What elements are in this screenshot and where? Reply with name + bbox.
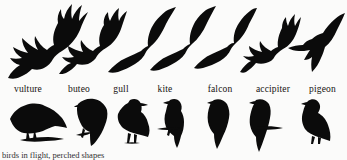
label-kite: kite <box>148 83 182 96</box>
bird-silhouette-figure: vulture buteo gull kite falcon accipiter… <box>0 0 347 160</box>
flight-silhouette-pigeon <box>288 0 346 84</box>
label-pigeon: pigeon <box>301 83 344 96</box>
label-accipiter: accipiter <box>246 83 300 96</box>
perched-silhouette-buteo <box>74 97 110 152</box>
birds-in-flight-row <box>0 0 347 84</box>
perched-birds-row <box>0 97 347 152</box>
label-falcon: falcon <box>198 83 242 96</box>
caption-text: birds in flight, perched shapes <box>2 151 104 160</box>
label-buteo: buteo <box>56 83 102 96</box>
clipped-caption-row: birds in flight, perched shapes <box>0 151 347 160</box>
perched-silhouette-falcon <box>202 97 236 152</box>
perched-silhouette-accipiter <box>246 97 286 152</box>
perched-silhouette-kite <box>157 97 195 152</box>
perched-silhouette-pigeon <box>294 97 336 152</box>
perched-silhouette-gull <box>113 97 153 152</box>
label-vulture: vulture <box>0 83 56 96</box>
label-gull: gull <box>104 83 138 96</box>
perched-silhouette-vulture <box>6 97 68 152</box>
species-labels-row: vulture buteo gull kite falcon accipiter… <box>0 83 347 97</box>
